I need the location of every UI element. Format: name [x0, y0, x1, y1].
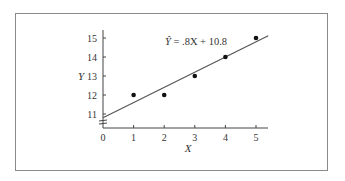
x-tick-label: 1 [131, 132, 136, 143]
x-tick-label: 5 [254, 132, 259, 143]
data-point [223, 55, 228, 60]
y-tick-label: 14 [87, 52, 97, 63]
x-tick-label: 2 [162, 132, 167, 143]
x-tick-label: 3 [192, 132, 197, 143]
y-tick-label: 12 [87, 90, 97, 101]
scatter-chart: 1112131415 012345 Y X Ŷ = .8X + 10.8 [0, 0, 345, 181]
regression-equation: Ŷ = .8X + 10.8 [165, 36, 227, 47]
x-tick-label: 0 [101, 132, 106, 143]
y-tick-label: 13 [87, 71, 97, 82]
x-axis-title: X [184, 142, 193, 154]
equation-text: = .8X + 10.8 [171, 36, 227, 47]
data-point [254, 36, 259, 41]
data-point [162, 93, 167, 98]
data-point [193, 74, 198, 79]
data-point [131, 93, 136, 98]
y-tick-label: 15 [87, 33, 97, 44]
y-tick-label: 11 [87, 109, 97, 120]
regression-line [103, 36, 268, 118]
y-axis-title: Y [78, 70, 86, 82]
x-tick-label: 4 [223, 132, 228, 143]
